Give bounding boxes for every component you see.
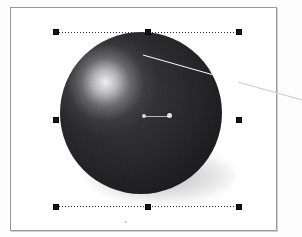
canvas-stage — [0, 0, 302, 237]
top-right-resize-handle[interactable] — [236, 29, 242, 35]
middle-left-resize-handle[interactable] — [53, 117, 59, 123]
bottom-left-resize-handle[interactable] — [53, 204, 59, 210]
bottom-center-resize-handle[interactable] — [145, 204, 151, 210]
selection-bounding-box[interactable] — [56, 32, 239, 207]
document-page[interactable] — [10, 7, 277, 231]
top-left-resize-handle[interactable] — [53, 29, 59, 35]
scan-artifact-speck — [124, 221, 127, 223]
middle-right-resize-handle[interactable] — [236, 117, 242, 123]
top-center-resize-handle[interactable] — [145, 29, 151, 35]
bottom-right-resize-handle[interactable] — [236, 204, 242, 210]
